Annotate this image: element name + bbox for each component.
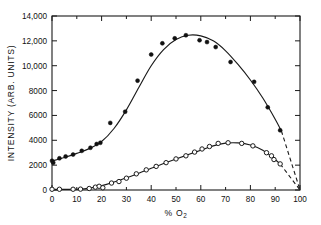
data-point-filled [252,80,256,84]
y-axis-tick-labels: 0200040006000800010,00012,00014,000 [22,12,47,195]
data-point-open [272,157,276,161]
x-axis-tick-labels: 0102030405060708090100 [50,195,308,204]
data-point-filled [205,40,209,44]
x-tick-label: 60 [196,195,206,204]
data-point-filled [57,156,61,160]
data-point-open [264,151,268,155]
data-point-open [154,164,158,168]
x-tick-label: 90 [271,195,281,204]
data-point-open [278,162,282,166]
data-point-filled [173,36,177,40]
data-point-open [216,141,220,145]
data-point-open [144,168,148,172]
x-axis-title-main: % O [164,208,183,218]
data-point-open [117,179,121,183]
data-point-open [200,147,204,151]
data-point-filled [123,110,127,114]
x-axis-title: % O2 [164,208,187,219]
x-tick-label: 100 [293,195,307,204]
data-point-open [101,186,105,190]
data-point-open [251,144,255,148]
data-point-open [124,176,128,180]
data-point-filled [149,53,153,57]
data-point-filled [136,79,140,83]
data-point-open [57,187,61,191]
series-filled-circles [50,33,300,190]
axis-ticks [52,16,300,190]
y-axis-title: INTENSITY (ARB. UNITS) [6,45,16,161]
data-point-filled [214,45,218,49]
data-series-group [50,33,300,191]
x-tick-label: 10 [72,195,82,204]
data-point-filled [51,161,55,165]
data-point-open [164,160,168,164]
fit-curve [52,35,281,161]
data-point-open [207,144,211,148]
data-point-filled [160,41,164,45]
data-point-open [134,172,138,176]
y-tick-label: 4000 [29,136,48,145]
x-axis-title-subscript: 2 [183,212,187,219]
x-tick-label: 0 [50,195,55,204]
data-point-filled [266,105,270,109]
data-point-open [192,150,196,154]
data-point-filled [98,141,102,145]
data-point-open [226,141,230,145]
data-point-filled [108,121,112,125]
series-open-circles [50,141,300,192]
data-point-open [50,187,54,191]
x-tick-label: 40 [147,195,157,204]
y-tick-label: 2000 [29,161,48,170]
intensity-vs-oxygen-chart: 0200040006000800010,00012,00014,000 0102… [0,0,321,225]
y-tick-label: 0 [42,186,47,195]
data-point-filled [95,142,99,146]
y-tick-label: 12,000 [22,37,47,46]
data-point-filled [184,33,188,37]
data-point-filled [88,146,92,150]
data-point-open [184,154,188,158]
x-tick-label: 50 [171,195,181,204]
plot-frame [52,16,300,190]
data-point-open [109,181,113,185]
data-point-filled [198,38,202,42]
x-tick-label: 20 [97,195,107,204]
data-point-open [78,187,82,191]
y-tick-label: 14,000 [22,12,47,21]
figure-panel: 0200040006000800010,00012,00014,000 0102… [0,0,321,225]
data-point-open [71,187,75,191]
data-point-filled [71,153,75,157]
data-point-filled [80,149,84,153]
data-point-open [240,141,244,145]
extrapolation-curve [280,164,300,190]
data-point-open [87,186,91,190]
x-tick-label: 80 [246,195,256,204]
data-point-filled [278,128,282,132]
data-point-filled [229,60,233,64]
x-tick-label: 30 [122,195,132,204]
x-tick-label: 70 [221,195,231,204]
y-tick-label: 8000 [29,87,48,96]
data-point-filled [64,154,68,158]
data-point-open [174,157,178,161]
y-tick-label: 6000 [29,111,48,120]
y-tick-label: 10,000 [22,62,47,71]
